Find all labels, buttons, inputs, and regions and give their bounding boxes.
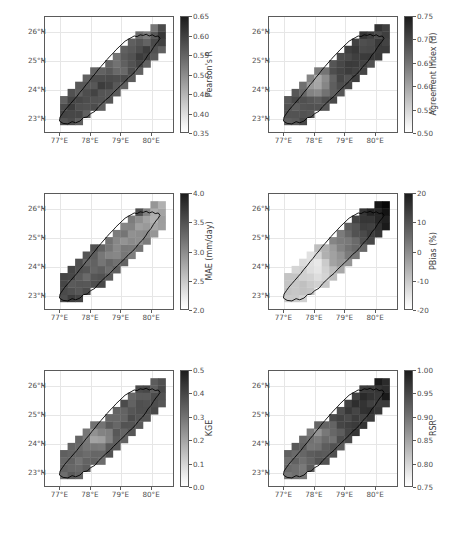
colorbar-tick-mark [189,36,192,37]
y-axis-tick-mark [266,237,269,238]
x-axis-tick-label: 79°E [336,490,353,499]
colorbar-tick-label: 0.40 [189,109,209,118]
metric-raster [269,17,397,132]
x-axis-tick-label: 78°E [81,313,98,322]
x-axis-tick-mark [59,310,60,313]
y-axis-tick-mark [266,31,269,32]
colorbar-tick-mark [413,222,416,223]
y-axis-tick-mark [266,118,269,119]
x-axis-tick-mark [151,487,152,490]
colorbar-tick-mark [189,16,192,17]
colorbar-tick-mark [189,370,192,371]
colorbar-tick-mark [413,464,416,465]
colorbar-tick-label: 0.60 [189,31,209,40]
metric-raster [269,371,397,486]
x-axis-tick-mark [344,310,345,313]
colorbar-gradient [181,17,188,132]
x-axis-tick-label: 80°E [142,313,159,322]
colorbar-tick-mark [189,281,192,282]
y-axis-tick-mark [42,266,45,267]
y-axis-tick-mark [42,414,45,415]
x-axis-tick-mark [90,487,91,490]
colorbar-tick-mark [189,75,192,76]
colorbar-tick-mark [413,281,416,282]
y-axis-tick-mark [42,31,45,32]
x-axis-tick-label: 77°E [275,490,292,499]
x-axis-tick-mark [314,487,315,490]
metric-raster [45,371,173,486]
colorbar-tick-mark [413,16,416,17]
y-axis-tick-mark [42,295,45,296]
metric-panel-5: 26°N25°N24°N23°N77°E78°E79°E80°E0.00.10.… [0,354,224,531]
x-axis-tick-label: 79°E [336,313,353,322]
x-axis-tick-mark [151,133,152,136]
y-axis-tick-mark [42,89,45,90]
x-axis-tick-mark [90,310,91,313]
x-axis-tick-mark [283,133,284,136]
x-axis-tick-mark [375,310,376,313]
metric-panel-1: 26°N25°N24°N23°N77°E78°E79°E80°E0.350.40… [0,0,224,177]
colorbar-tick-label: 0.50 [413,129,433,138]
colorbar-tick-mark [189,222,192,223]
metric-panel-3: 26°N25°N24°N23°N77°E78°E79°E80°E2.02.53.… [0,177,224,354]
colorbar [180,16,189,133]
x-axis-tick-mark [314,133,315,136]
metric-panel-4: 26°N25°N24°N23°N77°E78°E79°E80°E-20-1001… [224,177,448,354]
y-axis-tick-mark [266,295,269,296]
y-axis-tick-mark [266,385,269,386]
x-axis-tick-label: 77°E [51,136,68,145]
colorbar [404,16,413,133]
colorbar [180,193,189,310]
x-axis-tick-label: 78°E [81,136,98,145]
x-axis-tick-mark [375,133,376,136]
colorbar-tick-mark [413,63,416,64]
colorbar-tick-mark [413,133,416,134]
colorbar-axis-label: KGE [205,420,214,437]
map-axes [44,16,174,133]
x-axis-tick-mark [283,487,284,490]
colorbar-tick-mark [189,94,192,95]
colorbar-tick-mark [413,86,416,87]
x-axis-tick-label: 77°E [275,136,292,145]
colorbar-axis-label: Pearson's R [205,51,214,97]
x-axis-tick-label: 79°E [336,136,353,145]
colorbar-axis-label: Agreement Index (d) [429,33,438,116]
colorbar-tick-mark [189,114,192,115]
colorbar-gradient [405,17,412,132]
x-axis-tick-label: 78°E [305,313,322,322]
y-axis-tick-mark [42,472,45,473]
x-axis-tick-label: 80°E [366,490,383,499]
y-axis-tick-mark [266,266,269,267]
colorbar-tick-mark [189,252,192,253]
colorbar-tick-mark [189,133,192,134]
colorbar [180,370,189,487]
x-axis-tick-mark [344,487,345,490]
figure-panel-grid: 26°N25°N24°N23°N77°E78°E79°E80°E0.350.40… [0,0,449,533]
colorbar-tick-mark [413,110,416,111]
x-axis-tick-label: 79°E [112,490,129,499]
y-axis-tick-mark [42,60,45,61]
y-axis-tick-mark [266,208,269,209]
colorbar-tick-mark [189,393,192,394]
y-axis-tick-mark [42,443,45,444]
x-axis-tick-label: 77°E [51,313,68,322]
y-axis-tick-mark [42,208,45,209]
colorbar-tick-mark [189,417,192,418]
x-axis-tick-mark [59,133,60,136]
map-axes [268,193,398,310]
colorbar-tick-label: 0.95 [413,389,433,398]
x-axis-tick-label: 80°E [366,136,383,145]
metric-raster [45,17,173,132]
y-axis-tick-mark [42,385,45,386]
colorbar-gradient [405,194,412,309]
colorbar-tick-mark [413,193,416,194]
colorbar-tick-mark [413,417,416,418]
x-axis-tick-label: 77°E [51,490,68,499]
colorbar-tick-label: 0.75 [413,483,433,492]
x-axis-tick-mark [120,310,121,313]
x-axis-tick-mark [90,133,91,136]
colorbar-tick-mark [413,393,416,394]
x-axis-tick-label: 79°E [112,313,129,322]
colorbar-tick-mark [189,440,192,441]
colorbar-tick-label: 0.85 [413,436,433,445]
